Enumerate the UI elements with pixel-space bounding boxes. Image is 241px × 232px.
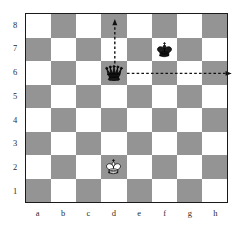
file-label-a: a — [25, 205, 50, 221]
square-b5[interactable] — [51, 85, 76, 109]
square-g6[interactable] — [177, 61, 202, 85]
square-d5[interactable] — [101, 85, 126, 109]
file-label-d: d — [101, 205, 126, 221]
square-f8[interactable] — [152, 14, 177, 38]
square-d2[interactable] — [101, 155, 126, 179]
rank-label-6: 6 — [7, 61, 23, 85]
rank-label-3: 3 — [7, 132, 23, 156]
black-queen-icon — [101, 61, 126, 85]
rank-label-7: 7 — [7, 37, 23, 61]
square-g7[interactable] — [177, 38, 202, 62]
rank-label-8: 8 — [7, 13, 23, 37]
black-king-icon — [152, 38, 177, 62]
square-a8[interactable] — [26, 14, 51, 38]
square-d6[interactable] — [101, 61, 126, 85]
square-d4[interactable] — [101, 108, 126, 132]
square-f3[interactable] — [152, 132, 177, 156]
square-h4[interactable] — [202, 108, 227, 132]
square-e5[interactable] — [127, 85, 152, 109]
square-e6[interactable] — [127, 61, 152, 85]
square-h5[interactable] — [202, 85, 227, 109]
square-c3[interactable] — [76, 132, 101, 156]
square-d8[interactable] — [101, 14, 126, 38]
square-a4[interactable] — [26, 108, 51, 132]
file-label-c: c — [76, 205, 101, 221]
square-a5[interactable] — [26, 85, 51, 109]
square-a3[interactable] — [26, 132, 51, 156]
rank-label-2: 2 — [7, 156, 23, 180]
file-label-b: b — [50, 205, 75, 221]
square-g8[interactable] — [177, 14, 202, 38]
square-b8[interactable] — [51, 14, 76, 38]
rank-label-5: 5 — [7, 84, 23, 108]
square-c1[interactable] — [76, 179, 101, 203]
rank-label-column: 8 7 6 5 4 3 2 1 — [7, 13, 23, 203]
square-c5[interactable] — [76, 85, 101, 109]
square-e4[interactable] — [127, 108, 152, 132]
rank-label-4: 4 — [7, 108, 23, 132]
square-d7[interactable] — [101, 38, 126, 62]
square-e3[interactable] — [127, 132, 152, 156]
square-b4[interactable] — [51, 108, 76, 132]
file-label-g: g — [177, 205, 202, 221]
square-d1[interactable] — [101, 179, 126, 203]
square-f1[interactable] — [152, 179, 177, 203]
square-b1[interactable] — [51, 179, 76, 203]
file-label-e: e — [127, 205, 152, 221]
square-f6[interactable] — [152, 61, 177, 85]
square-a6[interactable] — [26, 61, 51, 85]
square-c7[interactable] — [76, 38, 101, 62]
square-e8[interactable] — [127, 14, 152, 38]
square-h1[interactable] — [202, 179, 227, 203]
square-c6[interactable] — [76, 61, 101, 85]
square-b7[interactable] — [51, 38, 76, 62]
white-king-icon — [101, 155, 126, 179]
square-c4[interactable] — [76, 108, 101, 132]
square-g3[interactable] — [177, 132, 202, 156]
square-a7[interactable] — [26, 38, 51, 62]
square-h7[interactable] — [202, 38, 227, 62]
square-b6[interactable] — [51, 61, 76, 85]
square-e7[interactable] — [127, 38, 152, 62]
square-a2[interactable] — [26, 155, 51, 179]
chess-diagram: 8 7 6 5 4 3 2 1 a b c d e f g h — [0, 0, 241, 232]
square-h3[interactable] — [202, 132, 227, 156]
rank-label-1: 1 — [7, 179, 23, 203]
board-grid — [26, 14, 227, 202]
square-c8[interactable] — [76, 14, 101, 38]
square-h6[interactable] — [202, 61, 227, 85]
file-label-row: a b c d e f g h — [25, 205, 228, 221]
square-c2[interactable] — [76, 155, 101, 179]
square-a1[interactable] — [26, 179, 51, 203]
file-label-f: f — [152, 205, 177, 221]
square-g4[interactable] — [177, 108, 202, 132]
square-e2[interactable] — [127, 155, 152, 179]
square-g1[interactable] — [177, 179, 202, 203]
chess-board — [25, 13, 228, 203]
square-b2[interactable] — [51, 155, 76, 179]
square-f2[interactable] — [152, 155, 177, 179]
square-d3[interactable] — [101, 132, 126, 156]
file-label-h: h — [203, 205, 228, 221]
square-b3[interactable] — [51, 132, 76, 156]
square-f7[interactable] — [152, 38, 177, 62]
square-g5[interactable] — [177, 85, 202, 109]
square-h8[interactable] — [202, 14, 227, 38]
square-g2[interactable] — [177, 155, 202, 179]
square-f4[interactable] — [152, 108, 177, 132]
square-f5[interactable] — [152, 85, 177, 109]
square-e1[interactable] — [127, 179, 152, 203]
square-h2[interactable] — [202, 155, 227, 179]
